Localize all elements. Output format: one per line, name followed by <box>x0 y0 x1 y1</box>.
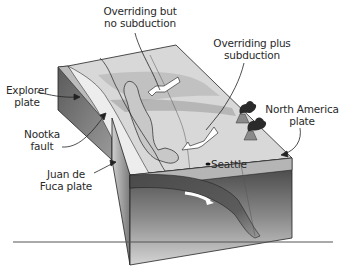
label-line: Overriding but <box>95 5 185 17</box>
label-seattle: Seattle <box>211 158 247 170</box>
north-america-surface <box>68 45 292 175</box>
label-line: fault <box>20 140 64 152</box>
label-overriding-plus-subduction: Overriding plus subduction <box>204 37 300 61</box>
label-line: plate <box>262 115 342 127</box>
label-line: North America <box>262 103 342 115</box>
label-juan-de-fuca-plate: Juan de Fuca plate <box>38 168 94 192</box>
label-line: Fuca plate <box>38 180 94 192</box>
label-line: Nootka <box>20 128 64 140</box>
label-north-america-plate: North America plate <box>262 103 342 127</box>
label-line: Juan de <box>38 168 94 180</box>
cross-section-front <box>130 158 292 265</box>
label-line: subduction <box>204 49 300 61</box>
label-line: Explorer <box>2 84 52 96</box>
seattle-marker <box>206 163 211 166</box>
label-line: no subduction <box>95 17 185 29</box>
label-line: Overriding plus <box>204 37 300 49</box>
label-overriding-no-subduction: Overriding but no subduction <box>95 5 185 29</box>
label-explorer-plate: Explorer plate <box>2 84 52 108</box>
label-nootka-fault: Nootka fault <box>20 128 64 152</box>
label-line: plate <box>2 96 52 108</box>
